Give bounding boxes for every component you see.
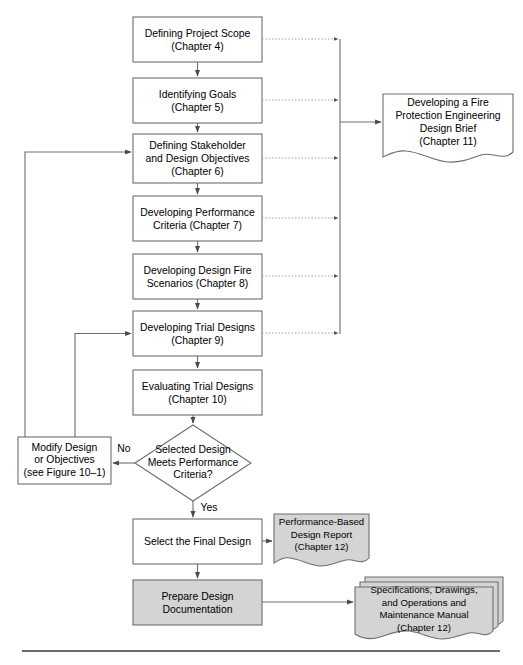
edge-modify-to-stakeholder: [25, 152, 131, 437]
flowchart-figure: Defining Project Scope (Chapter 4) Ident…: [0, 0, 523, 665]
edge-label-yes: Yes: [197, 502, 221, 514]
node-decision-criteria: [135, 425, 251, 501]
node-performance-based-design-report: [274, 514, 369, 566]
node-modify-design: [18, 437, 111, 484]
node-select-final-design: [133, 519, 262, 564]
node-identifying-goals: [133, 78, 262, 123]
node-design-brief: [383, 94, 513, 162]
node-defining-stakeholder: [133, 134, 262, 183]
node-developing-design-fire-scenarios: [133, 254, 262, 299]
flowchart-canvas: [0, 0, 523, 665]
edge-label-no: No: [113, 443, 135, 455]
node-specifications-drawings: [355, 587, 493, 639]
node-prepare-design-documentation: [133, 580, 262, 625]
edge-modify-to-trial-designs: [75, 334, 131, 438]
node-defining-project-scope: [133, 17, 262, 62]
node-evaluating-trial-designs: [133, 370, 262, 415]
node-developing-trial-designs: [133, 311, 262, 356]
node-developing-performance-criteria: [133, 196, 262, 241]
